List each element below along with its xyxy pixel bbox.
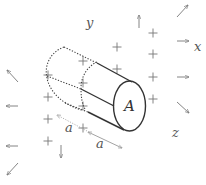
length-dimensions: a a bbox=[57, 115, 122, 151]
back-end-arc bbox=[46, 47, 82, 110]
top-edge bbox=[97, 63, 132, 82]
length-label-1: a bbox=[65, 120, 73, 135]
field-arrow-north-east-icon bbox=[177, 5, 188, 17]
plus-charge bbox=[149, 73, 158, 82]
bottom-edge-hidden bbox=[65, 103, 88, 112]
middle-edge-hidden bbox=[47, 76, 81, 89]
field-arrow-south-east-icon bbox=[177, 102, 189, 113]
field-arrow-north-west-icon bbox=[7, 70, 18, 82]
surface-area-label: A bbox=[122, 97, 135, 115]
bottom-edge bbox=[88, 112, 124, 130]
plus-charge bbox=[149, 29, 158, 38]
middle-edge bbox=[81, 89, 114, 106]
y-axis-label: y bbox=[85, 15, 94, 30]
plus-charge bbox=[79, 124, 88, 133]
cylinder-surface: A bbox=[46, 47, 145, 131]
x-axis-label: x bbox=[194, 39, 202, 54]
plus-charge bbox=[44, 71, 53, 80]
plus-charge bbox=[79, 57, 88, 66]
plus-charge bbox=[149, 95, 158, 104]
plus-charge bbox=[44, 137, 53, 146]
plus-charge bbox=[44, 115, 53, 124]
z-axis-label: z bbox=[171, 125, 179, 140]
length-label-2: a bbox=[96, 136, 104, 151]
length-arrow-visible bbox=[88, 132, 122, 148]
plus-charge bbox=[149, 50, 158, 59]
plus-charge bbox=[44, 93, 53, 102]
plus-charge bbox=[113, 43, 122, 52]
gauss-cylinder-diagram: y x z A a a bbox=[0, 0, 206, 185]
plus-charge bbox=[79, 79, 88, 88]
field-arrow-south-west-icon bbox=[7, 163, 18, 175]
